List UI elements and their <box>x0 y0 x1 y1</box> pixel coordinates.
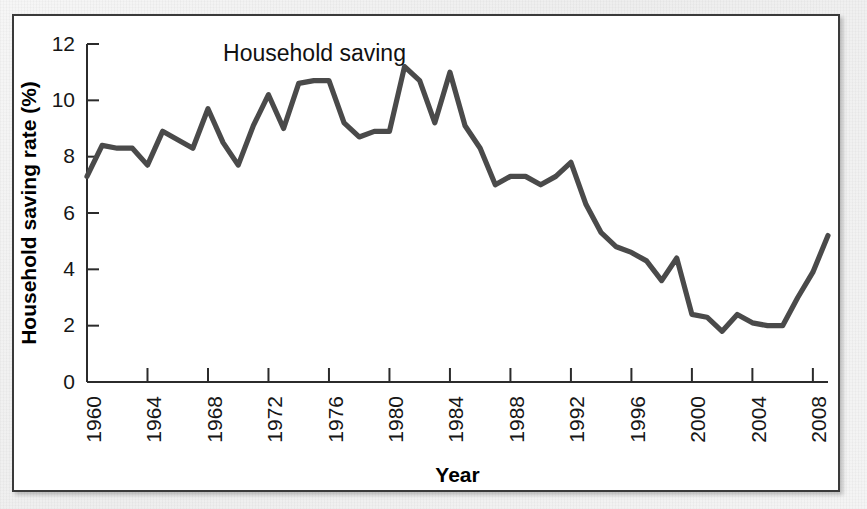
y-tick-label: 6 <box>63 201 75 224</box>
x-tick-label: 1996 <box>626 396 649 443</box>
x-axis-title: Year <box>435 463 479 486</box>
x-tick-label: 1992 <box>565 396 588 443</box>
y-tick-label: 10 <box>52 88 75 111</box>
data-series-group <box>87 67 828 332</box>
y-axis-title: Household saving rate (%) <box>17 81 40 345</box>
x-tick-label: 1960 <box>82 396 105 443</box>
figure-root: 024681012 196019641968197219761980198419… <box>0 0 867 509</box>
x-tick-label: 1984 <box>444 396 467 443</box>
x-tick-label: 2004 <box>747 396 770 443</box>
x-tick-label: 1988 <box>505 396 528 443</box>
x-tick-label: 1980 <box>384 396 407 443</box>
line-chart: 024681012 196019641968197219761980198419… <box>14 16 838 490</box>
x-tick-label: 1976 <box>324 396 347 443</box>
y-axis: 024681012 <box>52 32 99 393</box>
y-tick-label: 12 <box>52 32 75 55</box>
x-tick-label: 2000 <box>686 396 709 443</box>
annotation-group: Household saving <box>223 40 406 66</box>
y-tick-label: 4 <box>63 257 75 280</box>
series-annotation-label: Household saving <box>223 40 406 66</box>
x-tick-label: 1964 <box>142 396 165 443</box>
chart-panel: 024681012 196019641968197219761980198419… <box>12 14 840 492</box>
y-tick-label: 0 <box>63 370 75 393</box>
y-tick-label: 2 <box>63 313 75 336</box>
x-tick-label: 2008 <box>807 396 830 443</box>
x-axis: 1960196419681972197619801984198819921996… <box>82 368 831 443</box>
data-line-household-saving <box>87 67 828 332</box>
y-tick-label: 8 <box>63 144 75 167</box>
x-tick-label: 1972 <box>263 396 286 443</box>
x-tick-label: 1968 <box>203 396 226 443</box>
